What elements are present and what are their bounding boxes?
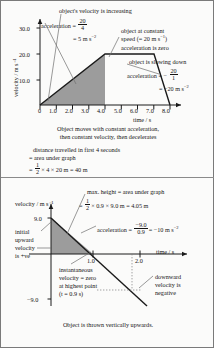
working-line1: distance travelled in first 4 seconds bbox=[33, 146, 120, 153]
caption-bottom: Object is thrown vertically upwards. bbox=[1, 321, 214, 328]
x-tick-2-chart2: 2.0 bbox=[135, 257, 143, 264]
velocity-line-chart2 bbox=[51, 218, 147, 306]
caption-middle-line1: Object moves with constant acceleration, bbox=[1, 125, 214, 132]
chart-velocity-time-projectile: max. height = area under graph = 12× 0.9… bbox=[1, 177, 214, 348]
x-tick-7: 7.0 bbox=[146, 107, 154, 114]
x-tick-0: 0 bbox=[38, 107, 41, 114]
x-tick-3: 3.0 bbox=[81, 107, 89, 114]
y-axis-arrow-chart1 bbox=[38, 19, 43, 24]
working-line3: = 12× 4 × 20 m = 40 m bbox=[29, 162, 88, 176]
fraction-one-half: 12 bbox=[35, 162, 40, 176]
x-axis-arrow-chart1 bbox=[176, 103, 181, 108]
x-tick-5: 5.0 bbox=[114, 107, 122, 114]
working-tail: × 4 × 20 m = 40 m bbox=[41, 166, 87, 173]
fraction-denominator: 2 bbox=[35, 168, 40, 175]
y-axis-arrow-chart2 bbox=[49, 204, 54, 209]
x-tick-4: 4.0 bbox=[97, 107, 105, 114]
x-tick-1: 1.0 bbox=[49, 107, 57, 114]
working-prefix: = bbox=[29, 166, 34, 173]
chart-velocity-time-trapezoid: object's velocity is increasing accelera… bbox=[1, 1, 214, 177]
x-tick-6: 6.0 bbox=[130, 107, 138, 114]
figure-page: object's velocity is increasing accelera… bbox=[0, 0, 214, 348]
x-tick-2: 2.0 bbox=[65, 107, 73, 114]
x-tick-1-chart2: 1.0 bbox=[87, 257, 95, 264]
caption-middle-line2: then constant velocity, then decelerates bbox=[1, 133, 214, 140]
x-axis-label-chart1: time / s bbox=[133, 116, 151, 123]
x-axis-arrow-chart2 bbox=[182, 252, 187, 257]
x-tick-8: 8.0 bbox=[162, 107, 170, 114]
x-axis-label-chart2: time / s bbox=[156, 248, 174, 255]
